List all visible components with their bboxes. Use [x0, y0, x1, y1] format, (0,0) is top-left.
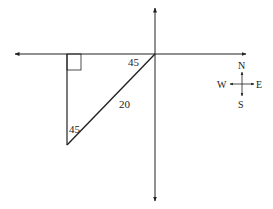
angle-label-bottom: 45: [69, 123, 81, 135]
angle-label-top: 45: [128, 56, 140, 68]
hypotenuse-label: 20: [119, 98, 131, 110]
triangle-hypotenuse: [67, 54, 155, 145]
compass-north: N: [238, 60, 245, 71]
compass-east: E: [256, 79, 262, 90]
compass-rose: N S W E: [217, 60, 262, 110]
compass-south: S: [238, 99, 244, 110]
diagram-canvas: 45 20 45 N S W E: [0, 0, 273, 209]
right-angle-marker: [67, 54, 81, 70]
compass-west: W: [217, 79, 227, 90]
